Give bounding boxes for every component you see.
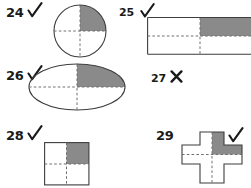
problem-number-24: 24: [6, 6, 24, 19]
shape-cross-29: [181, 131, 243, 185]
problem-number-28: 28: [6, 129, 24, 142]
problem-number-25: 25: [119, 7, 134, 18]
shaded-quadrant-25: [200, 18, 251, 37]
cross-mark-27: [170, 70, 183, 86]
shaded-quadrant-29: [212, 131, 243, 155]
shape-rectangle-25: [147, 17, 251, 55]
problem-number-27: 27: [151, 73, 166, 84]
problem-number-26: 26: [6, 69, 24, 82]
problem-number-29: 29: [156, 129, 174, 142]
shape-ellipse-26: [28, 63, 126, 111]
shape-circle-24: [53, 4, 107, 58]
shaded-quadrant-28: [67, 143, 89, 164]
check-mark-24: [27, 2, 43, 23]
worksheet-page: 24 25: [0, 0, 251, 188]
shape-square-28: [44, 142, 90, 186]
check-mark-28: [27, 125, 43, 146]
